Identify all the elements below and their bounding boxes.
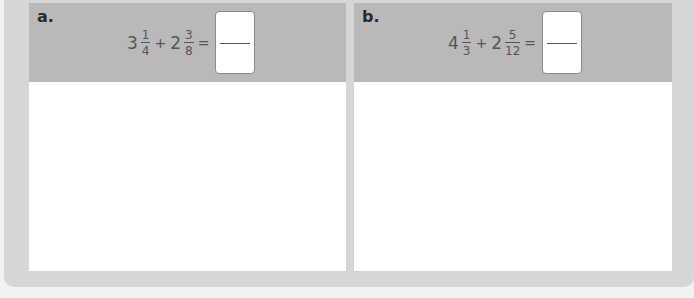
plus-sign: + xyxy=(154,35,166,51)
equals-sign: = xyxy=(524,35,536,51)
term1-whole: 3 xyxy=(127,33,138,53)
answer-fraction-box-a[interactable] xyxy=(215,11,255,74)
problem-panel-b: b. 4 1 3 + 2 5 12 = xyxy=(354,3,672,271)
term2-numerator: 5 xyxy=(508,29,518,42)
term1-whole: 4 xyxy=(448,33,459,53)
answer-fraction-bar xyxy=(547,43,577,44)
work-area-a[interactable] xyxy=(29,82,346,271)
term2-whole: 2 xyxy=(170,33,181,53)
equals-sign: = xyxy=(198,35,210,51)
answer-fraction-box-b[interactable] xyxy=(542,11,582,74)
problem-header-a: a. 3 1 4 + 2 3 8 = xyxy=(29,3,346,82)
term1-denominator: 4 xyxy=(142,43,150,57)
work-area-b[interactable] xyxy=(354,82,672,271)
term1-numerator: 1 xyxy=(462,29,472,42)
term1-numerator: 1 xyxy=(141,29,151,42)
term1-fraction: 1 4 xyxy=(141,29,151,57)
term1-denominator: 3 xyxy=(463,43,471,57)
term2-fraction: 5 12 xyxy=(505,29,520,57)
equation-b: 4 1 3 + 2 5 12 = xyxy=(448,3,582,82)
equation-a: 3 1 4 + 2 3 8 = xyxy=(127,3,255,82)
term1-fraction: 1 3 xyxy=(462,29,472,57)
term2-denominator: 12 xyxy=(505,43,520,57)
term2-fraction: 3 8 xyxy=(184,29,194,57)
problem-header-b: b. 4 1 3 + 2 5 12 = xyxy=(354,3,672,82)
answer-fraction-bar xyxy=(220,43,250,44)
problem-panel-a: a. 3 1 4 + 2 3 8 = xyxy=(29,3,346,271)
term2-denominator: 8 xyxy=(185,43,193,57)
term2-whole: 2 xyxy=(491,33,502,53)
plus-sign: + xyxy=(475,35,487,51)
term2-numerator: 3 xyxy=(184,29,194,42)
problem-label: b. xyxy=(362,7,380,26)
problem-label: a. xyxy=(37,7,54,26)
